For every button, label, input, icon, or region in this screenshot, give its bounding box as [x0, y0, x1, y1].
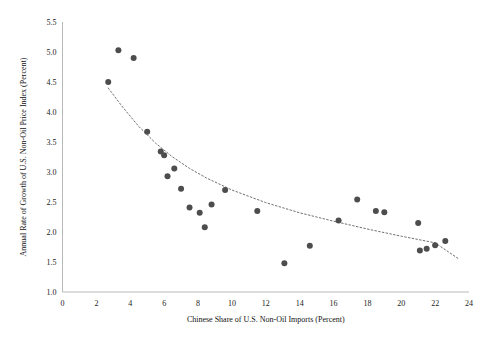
data-point — [197, 210, 203, 216]
y-axis-title: Annual Rate of Growth of U.S. Non-Oil Pr… — [19, 57, 28, 256]
data-points — [105, 47, 448, 266]
data-point — [307, 243, 313, 249]
x-tick-label: 10 — [228, 299, 236, 308]
data-point — [144, 129, 150, 135]
x-tick-label: 8 — [196, 299, 200, 308]
x-tick-label: 0 — [61, 299, 65, 308]
x-axis: 024681012141618202224 — [61, 292, 474, 308]
y-tick-label: 3.0 — [47, 168, 57, 177]
data-point — [222, 187, 228, 193]
data-point — [105, 79, 111, 85]
x-tick-label: 14 — [296, 299, 304, 308]
data-point — [254, 208, 260, 214]
y-tick-label: 4.0 — [47, 108, 57, 117]
y-tick-label: 5.5 — [47, 18, 57, 27]
data-point — [161, 152, 167, 158]
x-tick-label: 6 — [162, 299, 166, 308]
y-tick-label: 2.0 — [47, 228, 57, 237]
x-tick-label: 12 — [262, 299, 270, 308]
y-tick-label: 1.5 — [47, 258, 57, 267]
y-tick-label: 5.0 — [47, 48, 57, 57]
data-point — [424, 246, 430, 252]
y-tick-label: 2.5 — [47, 198, 57, 207]
y-tick-label: 1.0 — [47, 288, 57, 297]
data-point — [417, 248, 423, 254]
scatter-chart: 1.01.52.02.53.03.54.04.55.05.5 024681012… — [0, 0, 480, 338]
y-axis: 1.01.52.02.53.03.54.04.55.05.5 — [47, 18, 63, 297]
trendline — [108, 88, 459, 259]
data-point — [171, 165, 177, 171]
x-axis-title: Chinese Share of U.S. Non-Oil Imports (P… — [187, 315, 345, 324]
data-point — [115, 47, 121, 53]
data-point — [131, 55, 137, 61]
data-point — [432, 242, 438, 248]
x-tick-label: 2 — [94, 299, 98, 308]
data-point — [165, 173, 171, 179]
x-tick-label: 16 — [330, 299, 338, 308]
data-point — [336, 218, 342, 224]
x-tick-label: 22 — [431, 299, 439, 308]
chart-canvas: 1.01.52.02.53.03.54.04.55.05.5 024681012… — [0, 0, 480, 338]
data-point — [415, 220, 421, 226]
data-point — [354, 197, 360, 203]
x-tick-label: 24 — [465, 299, 473, 308]
x-tick-label: 4 — [128, 299, 132, 308]
data-point — [281, 260, 287, 266]
x-tick-label: 18 — [363, 299, 371, 308]
x-tick-label: 20 — [397, 299, 405, 308]
data-point — [187, 204, 193, 210]
data-point — [381, 209, 387, 215]
data-point — [373, 208, 379, 214]
y-tick-label: 3.5 — [47, 138, 57, 147]
data-point — [442, 238, 448, 244]
data-point — [202, 224, 208, 230]
y-tick-label: 4.5 — [47, 78, 57, 87]
data-point — [209, 201, 215, 207]
data-point — [178, 186, 184, 192]
